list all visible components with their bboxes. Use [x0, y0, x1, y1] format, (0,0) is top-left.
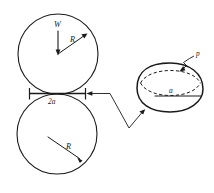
label-contact-radius: a — [169, 86, 173, 95]
callout-leader-lower-left — [110, 94, 129, 129]
contact-circle-dashed-arc — [141, 71, 201, 84]
pressure-arrowhead — [179, 66, 185, 72]
label-contact-width: 2a — [48, 97, 56, 106]
label-radius-top: R — [69, 35, 75, 44]
bottom-sphere-outline — [17, 94, 97, 174]
label-radius-bottom: R — [65, 142, 71, 151]
load-arrow-W — [56, 31, 61, 56]
label-pressure: p — [195, 49, 200, 58]
contact-mechanics-diagram: W R 2a R — [0, 0, 214, 193]
callout-arrow-to-dome — [129, 109, 145, 128]
top-radius-arrowhead — [81, 33, 87, 38]
callout-contact-arrowhead — [86, 91, 92, 96]
figure-root: W R 2a R — [0, 0, 214, 193]
callout-dome-arrowhead — [139, 109, 145, 114]
callout-arrow-to-contact — [86, 91, 110, 96]
label-load-W: W — [54, 20, 62, 29]
